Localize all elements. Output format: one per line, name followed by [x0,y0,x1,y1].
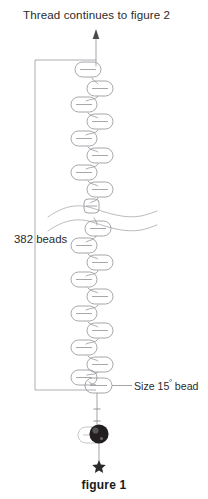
bead [87,323,113,338]
size-15-bead-label-main: Size 15 [134,380,169,392]
bead [85,221,111,236]
figure-caption: figure 1 [0,479,208,491]
bead [87,255,113,270]
bead [87,289,113,304]
thread-path-lower [86,218,98,385]
thread-continues-label: Thread continues to figure 2 [23,9,170,21]
dark-focal-bead [78,424,109,443]
figure-canvas: Thread continues to figure 2 382 beads S… [0,0,208,499]
size-15-bead-label-degree: º [169,378,172,385]
beads-count-label: 382 beads [14,234,67,245]
break-mark-upper-wave [48,206,157,217]
beads-count-bracket [35,60,96,390]
bead [87,81,113,96]
break-mark-lower-wave [48,220,157,231]
bead-group [71,62,113,393]
bead [87,114,113,129]
bead [87,148,113,163]
beading-diagram-svg [0,0,208,499]
size-15-bead-label: Size 15º bead [134,379,198,391]
bead [75,62,101,77]
size-15-bead-label-tail: bead [172,380,199,392]
bead [87,182,113,197]
bead [71,238,97,253]
star-icon [92,460,106,473]
bead [84,199,99,213]
bead-size-15-called-out [85,378,112,393]
thread-continues-arrow [93,29,100,60]
